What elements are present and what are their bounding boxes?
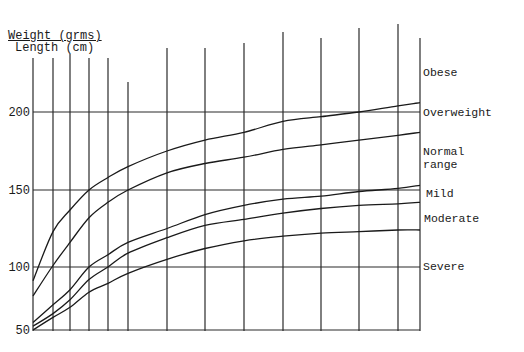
chart-grid [33,24,420,331]
curve-series-5 [33,230,420,330]
chart-curves [33,103,420,330]
curve-series-4 [33,202,420,326]
curve-series-2 [33,132,420,296]
growth-chart-plot [0,0,524,352]
